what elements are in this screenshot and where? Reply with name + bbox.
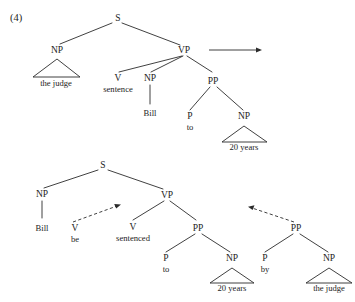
triangle-passive-to-object — [210, 268, 254, 283]
leaf-passive-to-object: 20 years — [218, 283, 248, 293]
aux-raising-dashed-arrow — [73, 204, 121, 222]
leaf-active-pp-object: 20 years — [230, 142, 260, 152]
by-arrow-head — [248, 205, 255, 210]
leaf-passive-aux: be — [71, 234, 79, 244]
branch-vp-to-pp — [187, 56, 212, 72]
node-passive-np-to-object: NP — [226, 253, 238, 263]
node-passive-pp-by: PP — [291, 223, 302, 233]
leaf-passive-preposition-by: by — [261, 264, 270, 274]
branch-vp-to-np — [151, 56, 183, 72]
leaf-passive-preposition-to: to — [163, 264, 170, 274]
node-passive-pp-to: PP — [193, 223, 204, 233]
node-passive-p-to: P — [163, 253, 168, 263]
node-passive-s: S — [100, 160, 105, 170]
leaf-active-preposition: to — [187, 122, 194, 132]
transformation-arrow-head — [256, 48, 262, 53]
leaf-passive-verb: sentenced — [116, 233, 151, 243]
branch-passive-s-to-np — [44, 170, 98, 188]
syntax-tree-figure: (4) S NP VP the judge V sentence NP Bill… — [0, 0, 355, 302]
branch-passive-ppto-to-p — [166, 234, 195, 252]
transformation-arrow — [209, 48, 262, 53]
node-active-pp: PP — [208, 76, 219, 86]
leaf-passive-by-object: the judge — [313, 283, 345, 293]
node-active-np-pp-object: NP — [238, 111, 250, 121]
branch-s-to-np — [60, 23, 112, 44]
triangle-active-pp-object — [222, 126, 267, 142]
tree-active: S NP VP the judge V sentence NP Bill PP … — [33, 13, 267, 152]
branch-passive-ppby-to-p — [265, 234, 293, 252]
leaf-passive-subject: Bill — [36, 223, 50, 233]
leaf-active-object: Bill — [144, 108, 158, 118]
branch-vp-to-v — [119, 56, 182, 72]
node-active-np-subject: NP — [51, 45, 63, 55]
branch-pp-to-p — [190, 87, 210, 110]
branch-passive-ppto-to-np — [202, 234, 230, 252]
node-active-np-object: NP — [144, 73, 156, 83]
leaf-active-subject: the judge — [40, 78, 72, 88]
node-active-vp: VP — [178, 45, 190, 55]
node-passive-p-by: P — [262, 253, 267, 263]
branch-pp-to-np — [217, 87, 243, 110]
node-passive-np-subject: NP — [36, 189, 48, 199]
branch-passive-s-to-vp — [108, 170, 163, 189]
triangle-active-subject — [33, 59, 80, 77]
example-number: (4) — [10, 12, 23, 24]
by-arrow-shaft — [252, 208, 294, 222]
tree-passive: S NP Bill VP V be V sentenced PP P t — [36, 160, 352, 293]
node-passive-np-by-object: NP — [323, 253, 335, 263]
syntax-tree-canvas: (4) S NP VP the judge V sentence NP Bill… — [0, 0, 355, 302]
aux-arrow-head — [114, 204, 121, 209]
node-active-s: S — [115, 13, 120, 23]
aux-arrow-shaft — [73, 206, 117, 222]
branch-s-to-vp — [122, 23, 180, 45]
node-active-v: V — [115, 73, 122, 83]
by-phrase-dashed-arrow — [248, 205, 294, 222]
node-passive-v-main: V — [130, 222, 137, 232]
leaf-active-verb: sentence — [103, 84, 133, 94]
branch-passive-ppby-to-np — [300, 234, 328, 252]
node-passive-vp: VP — [161, 190, 173, 200]
branch-passive-vp-to-v — [133, 201, 164, 220]
branch-passive-vp-to-pp — [170, 201, 196, 220]
triangle-passive-by-object — [306, 268, 352, 283]
node-active-p: P — [187, 111, 192, 121]
node-passive-v-aux: V — [72, 223, 79, 233]
